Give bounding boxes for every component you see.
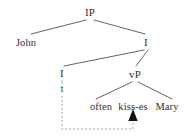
node-vp: vP [129,69,141,80]
node-often: often [90,101,112,112]
branch-ip-john [31,20,86,34]
node-john: John [16,37,36,48]
node-mary: Mary [155,101,178,112]
tree-branches [31,20,172,99]
branch-ibar-ihead [64,50,144,66]
branch-vp-mary [138,82,172,99]
branch-vp-often [96,82,132,99]
node-ip: IP [85,7,95,18]
branch-ibar-vp [136,50,148,66]
node-kisses: kiss-es [118,101,147,112]
tree-lines-svg [0,0,187,138]
node-trace: t [61,84,64,95]
node-i-bar: I [144,37,148,48]
node-i-head: I [60,68,64,79]
branch-ip-ibar [94,20,145,34]
syntax-tree-figure: IP John I I t vP often kiss-es Mary [0,0,187,138]
